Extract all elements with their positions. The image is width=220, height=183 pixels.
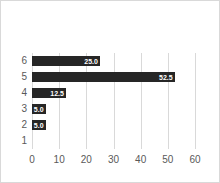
bar: 25.0 (32, 56, 100, 66)
gridline (168, 53, 169, 149)
y-category-label: 6 (1, 55, 27, 67)
bar-data-label: 52.5 (159, 74, 175, 81)
gridline (59, 53, 60, 149)
x-tick-label: 0 (29, 154, 35, 166)
x-tick-label: 50 (162, 154, 173, 166)
bar: 5.0 (32, 120, 46, 130)
x-tick-label: 10 (54, 154, 65, 166)
bar: 52.5 (32, 72, 175, 82)
horizontal-bar-chart: 25.052.512.55.05.0 654321 0102030405060 (0, 0, 220, 183)
x-tick-label: 30 (108, 154, 119, 166)
bar-data-label: 5.0 (34, 106, 46, 113)
x-tick-label: 20 (81, 154, 92, 166)
y-category-label: 5 (1, 71, 27, 83)
y-category-label: 1 (1, 135, 27, 147)
y-category-label: 4 (1, 87, 27, 99)
bar-data-label: 12.5 (50, 90, 66, 97)
gridline (86, 53, 87, 149)
gridline (32, 53, 33, 149)
y-category-label: 2 (1, 119, 27, 131)
bar: 12.5 (32, 88, 66, 98)
bar-data-label: 25.0 (84, 58, 100, 65)
gridline (141, 53, 142, 149)
gridline (195, 53, 196, 149)
x-tick-label: 40 (135, 154, 146, 166)
y-category-label: 3 (1, 103, 27, 115)
gridline (114, 53, 115, 149)
bar-data-label: 5.0 (34, 122, 46, 129)
x-tick-label: 60 (189, 154, 200, 166)
bar: 5.0 (32, 104, 46, 114)
